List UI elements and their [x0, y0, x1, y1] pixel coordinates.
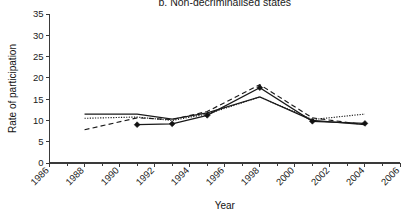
y-tick-label-10: 10 — [33, 115, 44, 126]
y-tick-label-5: 5 — [38, 136, 43, 147]
data-point-observed-1991 — [134, 122, 140, 128]
chart-markers-layer — [134, 85, 368, 128]
x-tick-label-1986: 1986 — [28, 165, 51, 188]
chart-series-layer — [85, 85, 365, 130]
x-tick-label-1988: 1988 — [63, 165, 86, 188]
data-point-observed-2004 — [362, 121, 368, 127]
chart-title-layer: b. Non-decriminalised states — [159, 0, 291, 8]
axis-spines — [50, 14, 401, 163]
x-tick-label-1990: 1990 — [98, 165, 121, 188]
y-axis-title: Rate of participation — [7, 44, 18, 133]
x-tick-label-1998: 1998 — [238, 165, 261, 188]
y-tick-label-30: 30 — [33, 30, 44, 41]
data-point-observed-1993 — [169, 121, 175, 127]
y-tick-label-25: 25 — [33, 51, 44, 62]
chart-tick-labels-layer: 0510152025303519861988199019921994199619… — [28, 8, 401, 187]
line-chart: b. Non-decriminalised states 05101520253… — [0, 0, 415, 219]
x-tick-label-2006: 2006 — [379, 165, 402, 188]
x-tick-label-1992: 1992 — [133, 165, 156, 188]
chart-axes-layer — [50, 14, 401, 163]
y-tick-label-20: 20 — [33, 72, 44, 83]
chart-title: b. Non-decriminalised states — [159, 0, 291, 8]
y-tick-label-35: 35 — [33, 8, 44, 19]
y-tick-label-15: 15 — [33, 94, 44, 105]
chart-container: b. Non-decriminalised states 05101520253… — [0, 0, 415, 219]
x-tick-label-1994: 1994 — [168, 165, 191, 188]
series-line-fitted-dotted — [85, 97, 365, 120]
chart-ticks-layer — [46, 14, 400, 167]
x-axis-title: Year — [215, 200, 236, 211]
chart-axis-titles-layer: YearRate of participation — [7, 44, 236, 211]
x-tick-label-2002: 2002 — [309, 165, 332, 188]
x-tick-label-2004: 2004 — [344, 165, 367, 188]
x-tick-label-1996: 1996 — [203, 165, 226, 188]
x-tick-label-2000: 2000 — [274, 165, 297, 188]
